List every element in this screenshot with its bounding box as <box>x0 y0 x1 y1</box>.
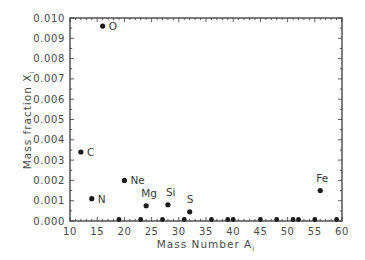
y-tick-label: 0.003 <box>33 155 65 166</box>
x-tick-label: 25 <box>145 226 159 237</box>
x-tick-label: 55 <box>308 226 322 237</box>
x-tick-label: 60 <box>335 226 349 237</box>
data-point <box>296 217 301 222</box>
point-label: O <box>109 20 117 32</box>
y-tick-label: 0.001 <box>33 195 65 206</box>
point-label: Ne <box>130 174 144 186</box>
x-tick-label: 20 <box>117 226 131 237</box>
y-tick-label: 0.004 <box>33 134 65 145</box>
y-tick-label: 0.009 <box>33 33 65 44</box>
y-tick-label: 0.002 <box>33 175 65 186</box>
data-point <box>334 217 339 222</box>
data-point <box>318 188 323 193</box>
data-point <box>258 217 263 222</box>
data-point <box>160 217 165 222</box>
data-point <box>144 203 149 208</box>
data-point <box>117 217 122 222</box>
data-point <box>138 217 143 222</box>
y-tick-label: 0.006 <box>33 94 65 105</box>
point-label: S <box>187 193 194 205</box>
point-label: Si <box>166 186 176 198</box>
data-point <box>78 149 83 154</box>
plot-border <box>70 18 342 221</box>
data-point <box>165 202 170 207</box>
data-point <box>89 196 94 201</box>
data-point <box>274 217 279 222</box>
y-tick-label: 0.005 <box>33 114 65 125</box>
x-tick-label: 45 <box>253 226 267 237</box>
y-tick-label: 0.000 <box>33 216 65 227</box>
y-tick-label: 0.010 <box>33 13 65 24</box>
point-label: C <box>87 146 94 158</box>
y-tick-label: 0.008 <box>33 53 65 64</box>
point-label: Fe <box>316 172 328 184</box>
x-tick-label: 15 <box>90 226 104 237</box>
x-tick-label: 30 <box>172 226 186 237</box>
data-points: CNONeMgSiSFe <box>78 20 339 222</box>
data-point <box>187 209 192 214</box>
data-point <box>122 178 127 183</box>
x-tick-label: 10 <box>63 226 77 237</box>
scatter-chart: 1015202530354045505560 0.0000.0010.0020.… <box>0 0 365 260</box>
point-label: N <box>98 193 106 205</box>
data-point <box>225 217 230 222</box>
x-tick-label: 40 <box>226 226 240 237</box>
x-axis: 1015202530354045505560 <box>63 18 349 237</box>
plot-frame <box>70 18 342 221</box>
data-point <box>291 217 296 222</box>
data-point <box>209 217 214 222</box>
data-point <box>182 217 187 222</box>
y-tick-label: 0.007 <box>33 73 65 84</box>
x-axis-title: Mass Number Ai <box>157 238 255 253</box>
data-point <box>100 24 105 29</box>
x-tick-label: 50 <box>281 226 295 237</box>
x-tick-label: 35 <box>199 226 213 237</box>
point-label: Mg <box>141 187 157 199</box>
data-point <box>312 217 317 222</box>
data-point <box>231 217 236 222</box>
